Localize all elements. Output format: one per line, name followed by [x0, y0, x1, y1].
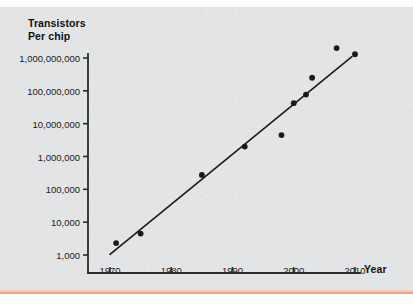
- data-point-marker: [113, 240, 119, 246]
- data-point-marker: [303, 92, 309, 98]
- data-points-group: [113, 45, 358, 246]
- trend-line: [110, 57, 352, 255]
- data-point-marker: [334, 45, 340, 51]
- data-point-marker: [291, 100, 297, 106]
- data-point-marker: [309, 75, 315, 81]
- data-point-marker: [199, 172, 205, 178]
- data-point-marker: [279, 132, 285, 138]
- data-point-marker: [138, 231, 144, 237]
- axes-group: [88, 54, 360, 273]
- chart-canvas: [0, 0, 413, 305]
- data-point-marker: [242, 144, 248, 150]
- chart-figure: Transistors Per chip Year 1,000,000,0001…: [0, 0, 413, 305]
- trend-line-group: [110, 57, 352, 255]
- plot-area: Transistors Per chip Year 1,000,000,0001…: [0, 0, 413, 305]
- data-point-marker: [352, 51, 358, 57]
